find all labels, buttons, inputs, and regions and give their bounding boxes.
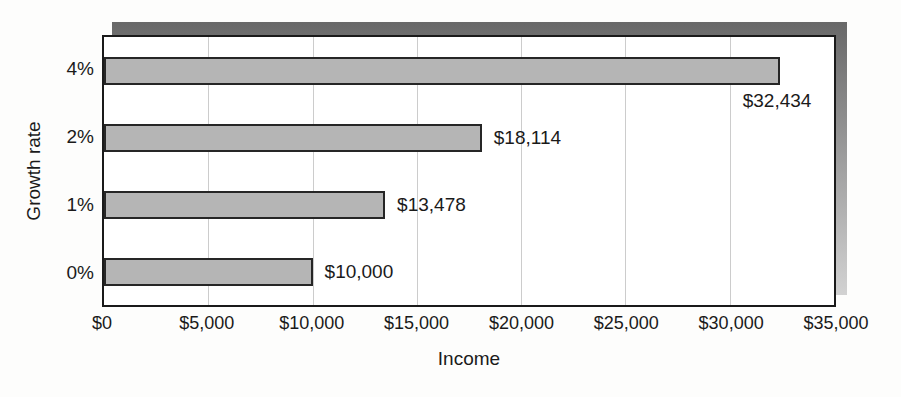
bar-value-label: $18,114 (494, 127, 561, 149)
bar-value-label: $10,000 (325, 261, 394, 283)
x-axis-title: Income (102, 348, 836, 370)
x-tick-label: $15,000 (384, 313, 449, 334)
y-category-label: 0% (0, 262, 94, 284)
x-tick-label: $35,000 (803, 313, 868, 334)
x-tick-label: $10,000 (279, 313, 344, 334)
y-category-label: 2% (0, 126, 94, 148)
x-tick-label: $20,000 (489, 313, 554, 334)
y-category-label: 1% (0, 194, 94, 216)
bar-row: $10,000 (104, 238, 834, 305)
x-tick-label: $5,000 (179, 313, 234, 334)
y-category-label: 4% (0, 58, 94, 80)
y-axis-category-labels: 4%2%1%0% (0, 35, 94, 307)
bar-2% (104, 124, 482, 152)
bar-row: $13,478 (104, 171, 834, 238)
x-tick-label: $25,000 (594, 313, 659, 334)
x-tick-label: $30,000 (699, 313, 764, 334)
x-axis-tick-labels: $0$5,000$10,000$15,000$20,000$25,000$30,… (102, 313, 836, 337)
bar-1% (104, 191, 385, 219)
bar-row: $32,434 (104, 37, 834, 104)
bar-row: $18,114 (104, 104, 834, 171)
bar-value-label: $13,478 (397, 194, 466, 216)
x-tick-label: $0 (92, 313, 112, 334)
plot-area: $32,434$18,114$13,478$10,000 (102, 35, 836, 307)
income-growth-bar-chart: $32,434$18,114$13,478$10,000 4%2%1%0% Gr… (0, 0, 901, 397)
y-axis-title: Growth rate (23, 121, 45, 220)
bar-4% (104, 57, 780, 85)
bar-0% (104, 258, 313, 286)
